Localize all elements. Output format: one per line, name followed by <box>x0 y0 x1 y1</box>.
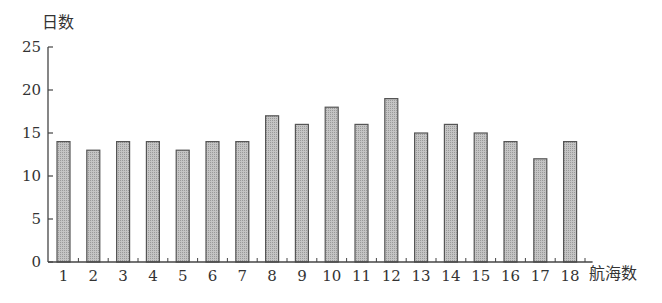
y-axis: 0510152025 <box>22 38 53 271</box>
x-axis: 123456789101112131415161718 <box>48 258 593 285</box>
bar-chart: 0510152025 123456789101112131415161718 日… <box>0 0 662 303</box>
y-tick-label: 10 <box>22 167 41 185</box>
y-axis-title: 日数 <box>42 13 74 32</box>
y-tick-label: 25 <box>22 38 41 56</box>
bars <box>57 99 577 262</box>
bar <box>146 142 159 262</box>
x-tick-label: 14 <box>441 267 460 285</box>
x-tick-label: 17 <box>531 267 550 285</box>
x-tick-label: 8 <box>267 267 277 285</box>
x-tick-label: 13 <box>412 267 431 285</box>
x-tick-label: 9 <box>297 267 307 285</box>
x-tick-label: 2 <box>89 267 99 285</box>
bar <box>295 124 308 262</box>
bar <box>236 142 249 262</box>
x-tick-label: 1 <box>59 267 69 285</box>
y-tick-label: 5 <box>31 210 41 228</box>
bar <box>385 99 398 262</box>
bar <box>57 142 70 262</box>
x-tick-label: 3 <box>118 267 128 285</box>
bar <box>474 133 487 262</box>
x-tick-label: 18 <box>561 267 580 285</box>
x-tick-label: 16 <box>501 267 520 285</box>
bar <box>325 107 338 262</box>
bar <box>266 116 279 262</box>
x-tick-label: 4 <box>148 267 158 285</box>
x-tick-label: 7 <box>238 267 248 285</box>
x-tick-label: 6 <box>208 267 218 285</box>
bar <box>534 159 547 262</box>
bar <box>564 142 577 262</box>
x-tick-label: 10 <box>322 267 341 285</box>
x-tick-label: 5 <box>178 267 188 285</box>
bar <box>444 124 457 262</box>
x-tick-label: 15 <box>471 267 490 285</box>
y-tick-label: 20 <box>22 81 41 99</box>
y-tick-label: 0 <box>31 253 41 271</box>
bar <box>206 142 219 262</box>
bar <box>87 150 100 262</box>
bar <box>117 142 130 262</box>
x-tick-label: 12 <box>382 267 401 285</box>
x-axis-title: 航海数 <box>589 264 637 283</box>
bar <box>504 142 517 262</box>
bar <box>176 150 189 262</box>
bar <box>415 133 428 262</box>
y-tick-label: 15 <box>22 124 41 142</box>
x-tick-label: 11 <box>352 267 371 285</box>
bar <box>355 124 368 262</box>
